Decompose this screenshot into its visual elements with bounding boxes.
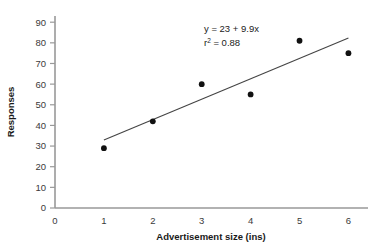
y-tick-label: 80 (35, 37, 46, 48)
x-tick-label: 1 (101, 215, 106, 226)
y-tick-label: 10 (35, 182, 46, 193)
y-tick-label: 60 (35, 79, 46, 90)
data-point (101, 145, 107, 151)
data-point (150, 118, 156, 124)
regression-equation-annotation: y = 23 + 9.9x (204, 23, 259, 34)
y-tick-label: 90 (35, 17, 46, 28)
chart-canvas: 0102030405060708090 0123456 Advertisemen… (0, 0, 380, 246)
x-tick-label: 4 (248, 215, 253, 226)
x-tick-label: 0 (52, 215, 57, 226)
y-axis-title: Responses (5, 87, 16, 138)
regression-line (104, 38, 349, 140)
x-tick-label: 5 (297, 215, 302, 226)
data-point (199, 81, 205, 87)
x-tick-label: 2 (150, 215, 155, 226)
y-tick-label: 70 (35, 58, 46, 69)
x-tick-label: 6 (346, 215, 351, 226)
data-point (297, 38, 303, 44)
r-squared-annotation: r2 = 0.88 (204, 37, 240, 49)
data-points (101, 38, 351, 151)
regression-line-segment (104, 38, 349, 140)
y-tick-label: 30 (35, 140, 46, 151)
y-tick-label: 20 (35, 161, 46, 172)
data-point (346, 50, 352, 56)
y-tick-label: 0 (41, 202, 46, 213)
x-tick-label: 3 (199, 215, 204, 226)
scatter-plot-figure: 0102030405060708090 0123456 Advertisemen… (0, 0, 380, 246)
y-axis-tick-labels: 0102030405060708090 (35, 17, 46, 214)
y-tick-label: 40 (35, 120, 46, 131)
data-point (248, 92, 254, 98)
y-tick-label: 50 (35, 99, 46, 110)
x-axis-title: Advertisement size (ins) (156, 231, 265, 242)
x-axis-tick-labels: 0123456 (52, 215, 351, 226)
